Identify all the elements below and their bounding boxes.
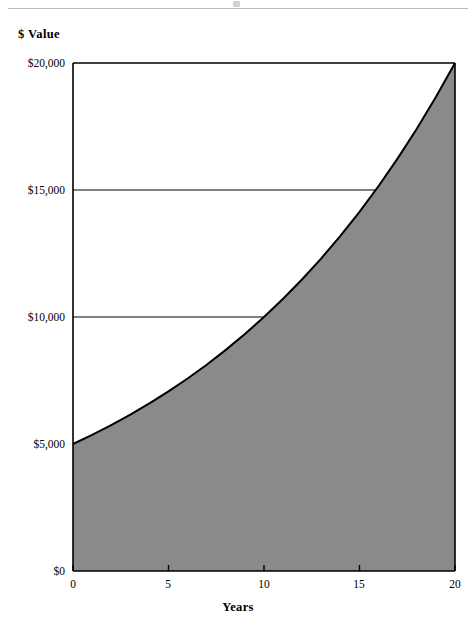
chart-plot-area — [0, 0, 476, 639]
chart-page: $ Value $20,000 $15,000 $10,000 $5,000 $… — [0, 0, 476, 639]
